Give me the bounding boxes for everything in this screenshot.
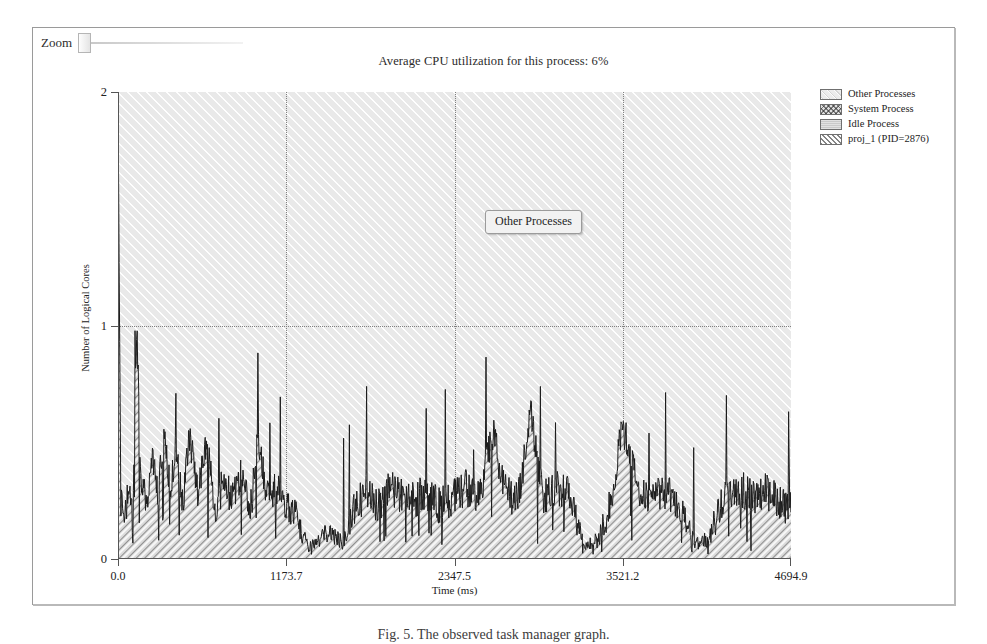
legend-item-label: System Process xyxy=(848,103,914,115)
legend-swatch-icon xyxy=(820,134,842,145)
x-axis-tick-label: 4694.9 xyxy=(775,569,808,584)
legend-swatch-icon xyxy=(820,104,842,115)
zoom-slider-track[interactable] xyxy=(88,42,243,44)
y-axis-label: Number of Logical Cores xyxy=(80,264,91,372)
plot-frame: 0120.01173.72347.53521.24694.9 xyxy=(118,92,791,559)
x-axis-tick xyxy=(455,559,456,566)
y-axis-tick xyxy=(111,559,118,560)
x-axis-tick xyxy=(286,559,287,566)
x-axis-label: Time (ms) xyxy=(118,584,791,596)
series-tooltip: Other Processes xyxy=(485,210,582,234)
legend-item-other-processes[interactable]: Other Processes xyxy=(820,87,948,101)
y-axis-tick xyxy=(111,92,118,93)
legend-item-label: Other Processes xyxy=(848,88,915,100)
y-axis-tick-label: 2 xyxy=(101,85,107,100)
zoom-slider[interactable] xyxy=(78,37,243,49)
legend-swatch-icon xyxy=(820,119,842,130)
x-axis-tick xyxy=(790,559,791,566)
zoom-toolbar: Zoom xyxy=(41,32,243,54)
x-axis-tick xyxy=(118,559,119,566)
series-plot xyxy=(118,92,791,559)
y-axis-tick-label: 1 xyxy=(101,318,107,333)
zoom-label: Zoom xyxy=(41,35,72,51)
legend-item-proj-1[interactable]: proj_1 (PID=2876) xyxy=(820,132,948,146)
legend-swatch-icon xyxy=(820,89,842,100)
x-axis-tick-label: 0.0 xyxy=(111,569,126,584)
legend-item-idle-process[interactable]: Idle Process xyxy=(820,117,948,131)
x-axis-tick-label: 1173.7 xyxy=(270,569,303,584)
legend-item-system-process[interactable]: System Process xyxy=(820,102,948,116)
legend-item-label: proj_1 (PID=2876) xyxy=(848,133,929,145)
plot-area xyxy=(118,92,791,559)
x-axis-tick-label: 3521.2 xyxy=(606,569,639,584)
y-axis-tick xyxy=(111,326,118,327)
y-axis-line xyxy=(118,92,119,559)
chart-legend: Other Processes System Process Idle Proc… xyxy=(820,87,948,147)
y-axis-tick-label: 0 xyxy=(101,552,107,567)
x-axis-tick xyxy=(623,559,624,566)
zoom-slider-thumb[interactable] xyxy=(78,33,91,53)
application-window: Zoom Average CPU utilization for this pr… xyxy=(32,27,955,605)
legend-item-label: Idle Process xyxy=(848,118,899,130)
x-axis-tick-label: 2347.5 xyxy=(438,569,471,584)
chart-title: Average CPU utilization for this process… xyxy=(33,54,954,69)
figure-caption: Fig. 5. The observed task manager graph. xyxy=(0,627,987,644)
